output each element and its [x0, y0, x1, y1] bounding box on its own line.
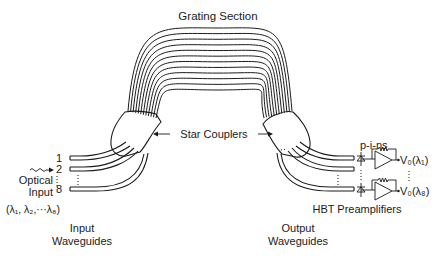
- wavelengths-label: (λ₁, λ₂,···λ₈): [6, 203, 60, 215]
- grating-arm: [153, 84, 266, 118]
- output-v0-lambda8: V₀(λ₈): [400, 185, 429, 197]
- receiver-channel-8: V₀(λ₈): [357, 178, 429, 200]
- input-waveguides-caption-2: Waveguides: [52, 235, 113, 247]
- optical-label: Optical: [19, 174, 53, 186]
- output-waveguides: [277, 142, 354, 191]
- optical-input-arrow-icon: [30, 168, 54, 173]
- input-waveguides-caption-1: Input: [70, 222, 94, 234]
- grating-arm: [156, 89, 264, 118]
- amplifier-icon: [375, 182, 392, 200]
- grating-arm: [143, 61, 276, 114]
- input-port-8-label: 8: [56, 183, 62, 195]
- grating-arm: [138, 50, 282, 113]
- awg-receiver-diagram: Grating Section Star Couplers 1 2 8: [0, 0, 435, 261]
- hbt-preamplifiers-label: HBT Preamplifiers: [312, 203, 402, 215]
- input-waveguides: [70, 142, 148, 191]
- star-couplers-label-group: Star Couplers: [153, 128, 273, 140]
- input-label: Input: [29, 186, 53, 198]
- grating-arm: [141, 56, 280, 114]
- input-port-2-label: 2: [56, 163, 62, 175]
- grating-arm: [128, 28, 292, 111]
- left-star-coupler: [111, 111, 161, 156]
- output-waveguides-caption-1: Output: [281, 222, 314, 234]
- output-waveguides-caption-2: Waveguides: [268, 235, 329, 247]
- amplifier-icon: [375, 151, 392, 169]
- feedback-resistor-icon: [372, 178, 396, 191]
- output-v0-lambda1: V₀(λ₁): [400, 154, 428, 166]
- star-couplers-label: Star Couplers: [180, 128, 248, 140]
- grating-section-title: Grating Section: [178, 10, 257, 22]
- grating-arms: [128, 28, 292, 118]
